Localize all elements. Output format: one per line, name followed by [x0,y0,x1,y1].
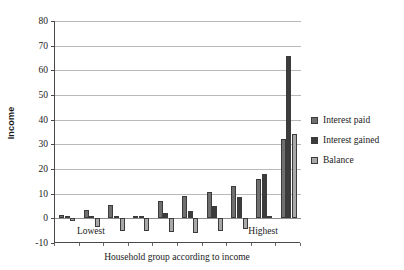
bar-group [55,21,80,243]
bar [158,201,163,218]
x-axis-title: Household group according to income [54,252,300,262]
bar [169,218,174,232]
bar [218,218,223,231]
bars-layer [55,21,301,243]
y-tick-label: 0 [22,213,48,223]
bar [193,218,198,233]
y-tick-label: 80 [22,16,48,26]
legend-item[interactable]: Balance [311,150,403,170]
bar [267,216,272,218]
legend-item[interactable]: Interest gained [311,130,403,150]
bar-group [227,21,252,243]
x-axis-tick [79,243,80,246]
y-tick-label: 50 [22,90,48,100]
bar [207,192,212,218]
bar [182,196,187,218]
y-tick-label: 10 [22,189,48,199]
legend-label: Interest gained [323,135,379,146]
bar [65,216,70,218]
bar [231,186,236,218]
legend-label: Balance [323,155,354,166]
y-axis-tick-labels: 80706050403020100-10 [22,0,48,270]
bar [144,218,149,230]
plot-area [54,21,300,243]
x-axis-tick [275,243,276,246]
y-tick-label: 40 [22,115,48,125]
legend-swatch-icon [311,137,318,144]
bar-group [276,21,301,243]
bar [133,216,138,218]
bar-chart: Income 80706050403020100-10 LowestHighes… [0,0,404,270]
x-axis-tick [177,243,178,246]
x-axis-tick [226,243,227,246]
bar-group [252,21,277,243]
chart-legend: Interest paidInterest gainedBalance [311,110,403,170]
bar [286,56,291,219]
x-axis-tick [251,243,252,246]
bar [114,216,119,218]
bar [84,210,89,219]
category-annotation: Highest [233,226,293,237]
bar [281,139,286,218]
bar-group [153,21,178,243]
bar [212,206,217,219]
bar [59,215,64,219]
x-axis-tick [300,243,301,246]
x-axis-tick [103,243,104,246]
y-tick-label: 30 [22,139,48,149]
x-axis-tick [202,243,203,246]
bar-group [129,21,154,243]
legend-swatch-icon [311,157,318,164]
bar-group [178,21,203,243]
bar-group [104,21,129,243]
category-annotation: Lowest [61,226,121,237]
bar [188,211,193,218]
bar [139,216,144,218]
bar [108,205,113,219]
y-tick-label: 60 [22,65,48,75]
legend-label: Interest paid [323,115,370,126]
bar-group [80,21,105,243]
bar [237,197,242,218]
bar [163,213,168,218]
y-tick-label: 70 [22,41,48,51]
bar [256,179,261,218]
x-axis-tick [54,243,55,246]
legend-item[interactable]: Interest paid [311,110,403,130]
bar [262,174,267,218]
y-tick-label: -10 [22,238,48,248]
x-axis-tick [152,243,153,246]
bar [292,134,297,218]
bar [70,218,75,221]
x-axis-tick [128,243,129,246]
bar-group [203,21,228,243]
y-axis-title: Income [6,93,16,153]
y-tick-label: 20 [22,164,48,174]
bar [89,216,94,218]
legend-swatch-icon [311,117,318,124]
